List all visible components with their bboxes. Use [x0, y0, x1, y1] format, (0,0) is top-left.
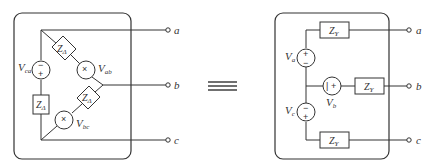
impedance-zy-a: ZY [320, 22, 349, 38]
svg-text:Vab: Vab [98, 62, 112, 76]
source-vb: | + Vb [323, 77, 341, 110]
svg-text:Va: Va [285, 50, 296, 64]
source-vca: − + Vca [18, 60, 50, 79]
svg-text:+: + [303, 112, 308, 122]
wye-network: ZY + − Va | + Vb ZY − + Vc [275, 13, 422, 159]
source-va: + − Va [285, 49, 315, 68]
svg-text:+: + [38, 69, 43, 79]
svg-text:Vc: Vc [285, 104, 296, 118]
source-vbc: × Vbc [55, 111, 90, 131]
impedance-zy-c: ZY [320, 132, 349, 148]
svg-text:−: − [303, 58, 308, 68]
circuit-diagram: − + Vca ZΔ ZΔ × Vab ZΔ × [0, 0, 432, 167]
svg-text:Vb: Vb [326, 96, 337, 110]
svg-text:Vbc: Vbc [76, 117, 90, 131]
source-vc: − + Vc [285, 103, 315, 122]
terminal-c-right: c [407, 134, 421, 146]
svg-text:Vca: Vca [18, 61, 32, 75]
terminal-a-right: a [407, 24, 422, 36]
svg-text:c: c [174, 134, 179, 146]
svg-text:×: × [61, 114, 66, 124]
svg-text:a: a [174, 24, 180, 36]
equivalence-symbol [208, 82, 237, 90]
svg-text:c: c [416, 134, 421, 146]
terminal-b-left: b [166, 79, 180, 91]
terminal-b-right: b [407, 80, 422, 92]
impedance-z-delta-left: ZΔ [33, 95, 49, 114]
delta-enclosure [14, 13, 131, 159]
source-vab: × Vab [77, 61, 112, 79]
delta-network: − + Vca ZΔ ZΔ × Vab ZΔ × [14, 13, 180, 159]
svg-text:×: × [82, 64, 87, 74]
terminal-c-left: c [166, 134, 179, 146]
impedance-zy-b: ZY [355, 78, 384, 94]
svg-text:b: b [416, 80, 422, 92]
svg-text:|: | [326, 81, 328, 91]
svg-text:b: b [174, 79, 180, 91]
terminal-a-left: a [166, 24, 180, 36]
svg-text:+: + [331, 81, 336, 91]
svg-text:a: a [416, 24, 422, 36]
